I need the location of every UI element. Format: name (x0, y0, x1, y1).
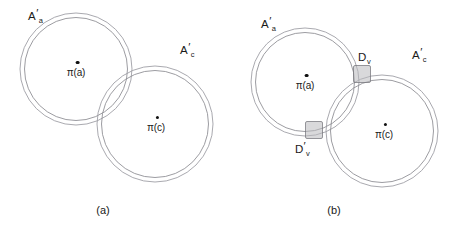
label-annulus-a-base: A (28, 10, 36, 22)
label-domain-dv-prime-sub: v (306, 149, 310, 158)
label-annulus-c: A′c (180, 42, 195, 58)
label-annulus-a: A′a (28, 8, 43, 24)
label-annulus-a-sub: a (272, 24, 276, 33)
panel-a: A′a A′c π(a) π(c) (a) (0, 0, 234, 232)
label-centre-pi-c-text: π(c) (147, 123, 165, 133)
label-centre-pi-c: π(c) (375, 123, 393, 140)
label-centre-pi-c: π(c) (147, 116, 165, 133)
upper-intersection-patch (354, 66, 371, 83)
panel-b: A′a A′c Dv D′v π(a) π(c) (b) (234, 0, 467, 232)
panel-a-drawing (0, 0, 234, 232)
label-centre-pi-c-text: π(c) (375, 130, 393, 140)
centre-dot-a (67, 61, 86, 67)
centre-dot-c (375, 123, 393, 129)
centre-dot-a-marker (305, 74, 308, 77)
label-centre-pi-a-text: π(a) (296, 81, 315, 91)
label-domain-dv-prime-base: D (295, 143, 303, 155)
label-centre-pi-a: π(a) (296, 74, 315, 91)
centre-dot-a (296, 74, 315, 80)
label-domain-dv-prime: D′v (295, 141, 310, 157)
label-centre-pi-a-text: π(a) (67, 68, 86, 78)
label-annulus-c-base: A (180, 44, 188, 56)
label-domain-dv-sub: v (367, 57, 371, 66)
label-annulus-a-sub: a (39, 16, 43, 25)
lower-intersection-patch (306, 122, 323, 139)
label-annulus-c-base: A (412, 49, 420, 61)
caption-panel-b: (b) (327, 204, 340, 216)
label-annulus-c: A′c (412, 47, 427, 63)
label-annulus-a-base: A (261, 18, 269, 30)
label-centre-pi-a: π(a) (67, 61, 86, 78)
label-annulus-c-sub: c (191, 50, 195, 59)
caption-panel-a: (a) (96, 204, 109, 216)
centre-dot-c-marker (384, 123, 387, 126)
centre-dot-c-marker (156, 116, 159, 119)
figure-root: A′a A′c π(a) π(c) (a) (0, 0, 467, 232)
label-annulus-c-sub: c (423, 55, 427, 64)
label-annulus-a: A′a (261, 16, 276, 32)
panel-b-drawing (234, 0, 467, 232)
label-domain-dv-base: D (358, 51, 366, 63)
centre-dot-a-marker (76, 61, 79, 64)
label-domain-dv: Dv (358, 49, 371, 65)
centre-dot-c (147, 116, 165, 122)
